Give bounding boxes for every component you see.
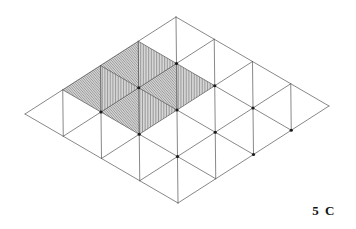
mesh-vertex-dot [214,131,217,134]
mesh-vertex-dot [99,110,102,113]
mesh-line-diagonal [214,39,215,86]
mesh-vertex-dot [213,84,216,87]
mesh-vertex-dot [176,155,179,158]
figure-root: 5 C [0,0,356,229]
mesh-vertex-dot [251,106,254,109]
mesh-line-diagonal [176,17,177,64]
mesh-vertex-dot [252,153,255,156]
mesh-line-diagonal [138,41,139,88]
mesh-line-diagonal [215,132,216,179]
hatched-triangle [139,88,176,134]
mesh-vertex-dot [175,62,178,65]
mesh-line-diagonal [139,134,140,181]
hatched-triangle [177,64,214,110]
mesh-line-diagonal [177,64,178,111]
mesh-line-diagonal [291,84,292,131]
mesh-line-diagonal [101,112,102,159]
mesh-line-diagonal [101,66,102,113]
mesh-line-diagonal [177,110,178,157]
mesh-vertex-dot [175,108,178,111]
hatched-triangle [63,66,101,111]
triangular-mesh-diagram [0,0,356,229]
hatched-triangle [101,42,139,87]
mesh-line-diagonal [253,108,254,155]
mesh-line-diagonal [178,157,179,204]
mesh-line-diagonal [215,86,216,133]
mesh-line-diagonal [253,62,254,109]
mesh-line-diagonal [63,90,64,137]
mesh-line-diagonal [139,88,140,135]
mesh-vertex-dot [290,129,293,132]
mesh-vertex-dot [138,133,141,136]
mesh-vertex-dot [137,86,140,89]
figure-label: 5 C [312,204,336,217]
